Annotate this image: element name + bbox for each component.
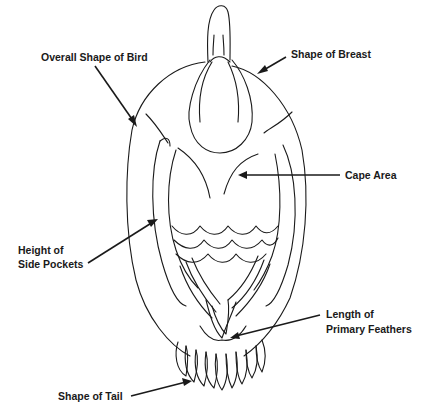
arrow-side-pockets [88,219,158,263]
label-tail: Shape of Tail [58,390,123,402]
bird-diagram: Overall Shape of Bird Shape of Breast Ca… [0,0,421,406]
label-side-pockets-line2: Side Pockets [18,258,84,270]
label-primary-line1: Length of [326,308,374,320]
bird-outline [127,6,306,390]
arrow-tail [131,378,192,396]
arrow-breast [257,57,286,74]
label-primary-line2: Primary Feathers [326,323,412,335]
label-overall-shape: Overall Shape of Bird [41,51,148,63]
arrow-cape [238,171,340,179]
arrow-primary-feathers [230,315,320,339]
arrow-overall-shape [95,66,137,127]
label-cape: Cape Area [345,169,397,181]
label-side-pockets-line1: Height of [18,244,64,256]
label-breast: Shape of Breast [291,48,371,60]
